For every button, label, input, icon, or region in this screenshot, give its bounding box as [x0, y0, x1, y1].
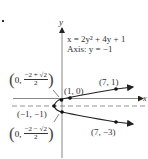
problem-marker [2, 20, 4, 22]
x-axis-label: x [143, 94, 147, 104]
upper-y-intercept-fraction: −2 + √2 2 [24, 72, 48, 87]
y-axis-label: y [59, 17, 63, 27]
point-7-neg3-label: (7, −3) [91, 127, 116, 137]
lower-y-intercept-point [60, 110, 64, 114]
vertex-point [52, 104, 56, 108]
equation-label: x = 2y² + 4y + 1 [67, 34, 125, 44]
lower-y-intercept-fraction: −2 − √2 2 [24, 126, 48, 141]
lower-intercept-pointer [54, 114, 59, 122]
point-7-1 [114, 87, 118, 91]
axis-of-symmetry-label: Axis: y = −1 [67, 44, 112, 54]
point-7-neg3 [114, 120, 118, 124]
lower-y-intercept-label: ( 0, −2 − √2 2 ) [9, 125, 54, 142]
upper-y-intercept-label: ( 0, −2 + √2 2 ) [9, 71, 54, 88]
vertex-label: (−1, −1) [17, 109, 47, 119]
x-intercept-point [68, 96, 72, 100]
point-7-1-label: (7, 1) [99, 77, 119, 87]
upper-y-intercept-point [60, 98, 64, 102]
parabola-lower-branch [54, 106, 133, 124]
x-intercept-label: (1, 0) [64, 86, 84, 96]
upper-intercept-pointer [53, 90, 59, 97]
